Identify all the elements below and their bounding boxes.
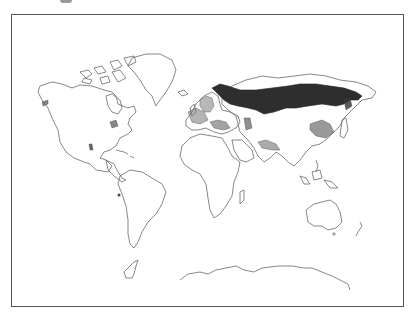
greenland-coastline — [128, 54, 176, 106]
south-america-coastline — [118, 170, 166, 248]
north-america-coastline — [38, 82, 136, 172]
range-alps-balkans — [210, 120, 230, 130]
antarctica-coastline — [180, 266, 350, 290]
range-scandinavia — [200, 96, 214, 112]
africa-coastline — [180, 134, 240, 218]
range-himalaya — [258, 140, 280, 150]
world-map — [0, 0, 414, 313]
range-great-lakes — [110, 120, 118, 128]
range-andes-mark — [118, 194, 121, 197]
range-rocky-mountains — [89, 144, 93, 150]
range-caucasus — [244, 118, 252, 130]
australia-coastline — [306, 200, 342, 230]
range-northern-eurasia — [212, 84, 362, 114]
